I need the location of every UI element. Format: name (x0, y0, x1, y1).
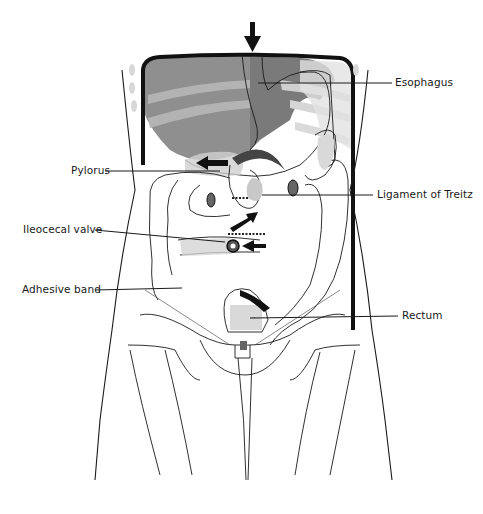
label-ileocecal-valve: Ileocecal valve (23, 223, 102, 235)
label-esophagus: Esophagus (395, 76, 453, 88)
label-pylorus: Pylorus (71, 164, 110, 176)
ileum-arrow (242, 240, 266, 252)
adhesive-band-leader (95, 288, 182, 290)
duodenum-arrow (230, 212, 258, 232)
label-ligament-of-treitz: Ligament of Treitz (377, 188, 473, 200)
ileocecal-valve-leader (95, 230, 225, 242)
esophagus-entry-arrow (244, 22, 261, 52)
label-rectum: Rectum (402, 309, 443, 321)
label-adhesive-band: Adhesive band (22, 283, 101, 295)
rectum-region (224, 289, 270, 332)
